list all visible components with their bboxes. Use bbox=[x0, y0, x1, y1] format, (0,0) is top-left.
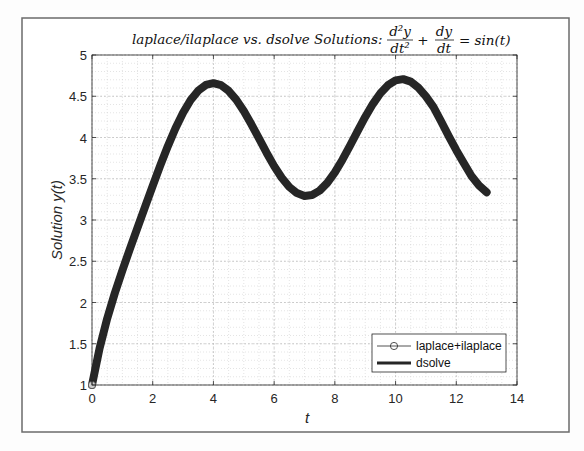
legend[interactable]: laplace+ilaplace dsolve bbox=[372, 334, 506, 372]
y-axis-label: Solution y(t) bbox=[48, 180, 65, 260]
x-tick-label: 4 bbox=[210, 391, 217, 406]
y-tick-label: 1 bbox=[80, 378, 87, 393]
title-plus: + bbox=[417, 32, 428, 48]
y-tick-label: 2.5 bbox=[69, 254, 87, 269]
y-tick-label: 4 bbox=[80, 131, 87, 146]
title-rhs: = sin(t) bbox=[459, 32, 511, 48]
y-tick-label: 4.5 bbox=[69, 89, 87, 104]
x-tick-label: 14 bbox=[510, 391, 524, 406]
title-frac2-numerator: dy bbox=[436, 23, 453, 39]
x-tick-label: 6 bbox=[271, 391, 278, 406]
x-tick-label: 2 bbox=[149, 391, 156, 406]
x-tick-label: 0 bbox=[88, 391, 95, 406]
y-tick-label: 1.5 bbox=[69, 337, 87, 352]
figure: laplace/ilaplace vs. dsolve Solutions: d… bbox=[0, 0, 584, 451]
legend-label-dsolve: dsolve bbox=[416, 356, 451, 370]
legend-label-laplace: laplace+ilaplace bbox=[416, 339, 502, 353]
x-tick-label: 12 bbox=[449, 391, 463, 406]
title-frac2-denominator: dt bbox=[437, 40, 452, 56]
y-tick-label: 5 bbox=[80, 48, 87, 63]
title-prefix: laplace/ilaplace vs. dsolve Solutions: bbox=[132, 31, 383, 47]
y-tick-label: 3 bbox=[80, 213, 87, 228]
y-tick-label: 3.5 bbox=[69, 172, 87, 187]
title-frac1-numerator: d²y bbox=[389, 23, 411, 39]
y-tick-label: 2 bbox=[80, 296, 87, 311]
x-tick-label: 8 bbox=[331, 391, 338, 406]
title-frac1-denominator: dt² bbox=[390, 40, 409, 56]
x-tick-label: 10 bbox=[388, 391, 402, 406]
